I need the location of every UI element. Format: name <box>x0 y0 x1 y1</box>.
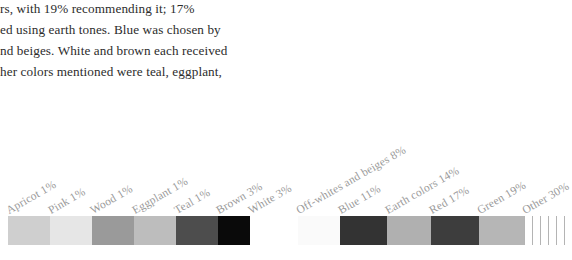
category-label: Earth colors 14% <box>383 164 461 216</box>
bar-segment <box>431 216 479 245</box>
bar-segment <box>218 216 250 245</box>
bar-segment <box>298 216 340 245</box>
bar-segment <box>176 216 218 245</box>
body-text-line: nd beiges. White and brown each received <box>0 44 228 58</box>
stacked-color-bar <box>8 216 532 245</box>
bar-segment <box>50 216 92 245</box>
bar-segment <box>8 216 50 245</box>
body-text-line: rs, with 19% recommending it; 17% <box>0 2 195 16</box>
bar-segment <box>340 216 387 245</box>
bar-segment <box>92 216 134 245</box>
bar-segment <box>387 216 431 245</box>
category-label: Green 19% <box>475 179 528 216</box>
category-label: Wood 1% <box>88 182 135 216</box>
category-label-group: Apricot 1%Pink 1%Wood 1%Eggplant 1%Teal … <box>0 100 538 216</box>
category-label: Other 30% <box>520 180 571 216</box>
body-text-block: rs, with 19% recommending it; 17% ed usi… <box>0 0 538 92</box>
body-text-line: ed using earth tones. Blue was chosen by <box>0 23 221 37</box>
bar-segment <box>134 216 176 245</box>
bar-segment <box>250 216 298 245</box>
bar-segment <box>479 216 524 245</box>
body-text-line: her colors mentioned were teal, eggplant… <box>0 65 222 79</box>
color-preference-chart: Apricot 1%Pink 1%Wood 1%Eggplant 1%Teal … <box>0 100 538 260</box>
bar-segment <box>524 216 572 245</box>
